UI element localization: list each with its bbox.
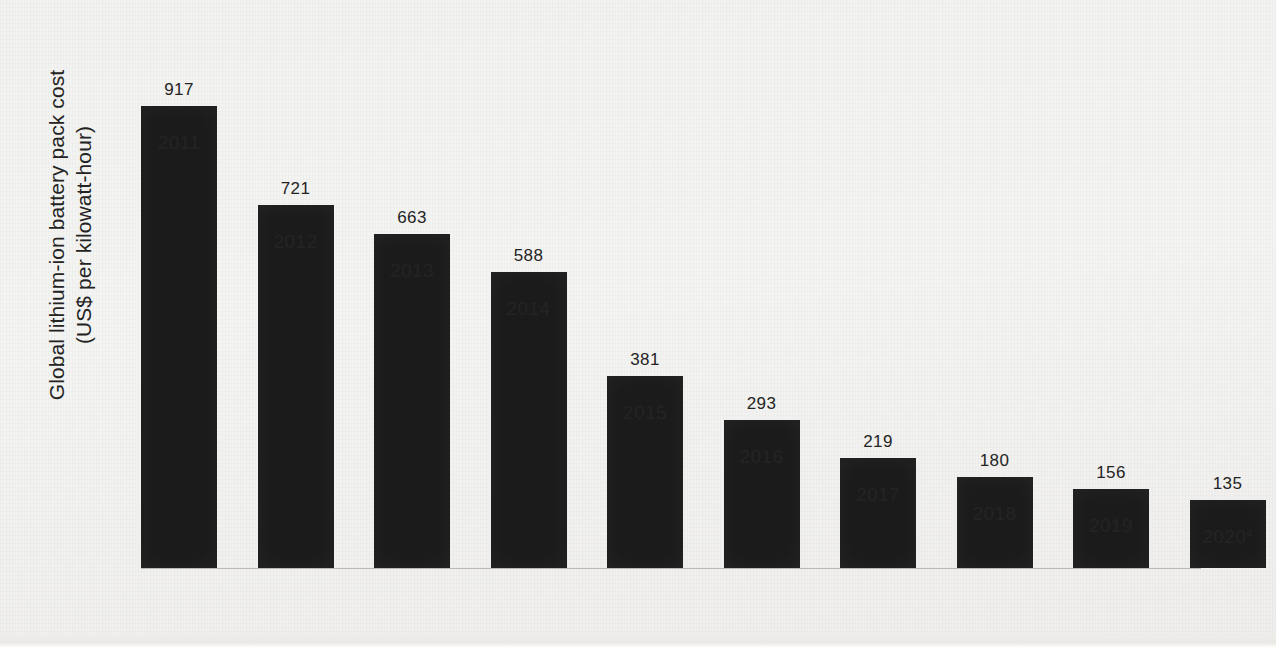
x-axis-tick-label-text: 2013 <box>390 260 434 281</box>
x-axis-tick-label: 2020a <box>1202 526 1252 548</box>
x-axis-tick-label-text: 2017 <box>856 484 900 505</box>
x-axis-tick-label: 2015 <box>623 402 667 424</box>
bar-value-label: 917 <box>164 80 193 100</box>
x-axis-baseline <box>141 568 1201 569</box>
x-axis-tick-label-text: 2015 <box>623 402 667 423</box>
x-axis-tick-label: 2011 <box>158 132 200 154</box>
bar-group: 2932016 <box>724 420 800 568</box>
x-axis-tick-label-text: 2011 <box>158 132 200 153</box>
y-axis-title: Global lithium-ion battery pack cost (US… <box>43 25 97 445</box>
bar-value-label: 135 <box>1213 474 1242 494</box>
bar <box>374 234 450 568</box>
bar-value-label: 180 <box>980 451 1009 471</box>
bar-group: 1802018 <box>957 477 1033 568</box>
bar <box>258 205 334 568</box>
bar-group: 6632013 <box>374 234 450 568</box>
x-axis-tick-label-text: 2016 <box>740 446 784 467</box>
bar-value-label: 588 <box>514 246 543 266</box>
x-axis-tick-label-text: 2012 <box>274 231 318 252</box>
x-axis-tick-label: 2016 <box>740 446 784 468</box>
x-axis-tick-label-text: 2020 <box>1202 526 1246 547</box>
bar-value-label: 219 <box>863 432 892 452</box>
bar <box>840 458 916 568</box>
x-axis-tick-label: 2017 <box>856 484 900 506</box>
x-axis-tick-label-text: 2018 <box>973 503 1017 524</box>
x-axis-tick-label: 2013 <box>390 260 434 282</box>
bar-chart-plot-area: Global lithium-ion battery pack cost (US… <box>0 0 1276 665</box>
bar-group: 1352020a <box>1190 500 1266 568</box>
bar-group: 1562019 <box>1073 489 1149 568</box>
bar-value-label: 721 <box>281 179 310 199</box>
bar-group: 9172011 <box>141 106 217 568</box>
x-axis-tick-label: 2012 <box>274 231 318 253</box>
x-axis-tick-label: 2019 <box>1089 515 1133 537</box>
x-axis-tick-label: 2014 <box>507 298 551 320</box>
bar-group: 7212012 <box>258 205 334 568</box>
x-axis-tick-label-text: 2019 <box>1089 515 1133 536</box>
x-axis-tick-label: 2018 <box>973 503 1017 525</box>
y-axis-title-line-1: Global lithium-ion battery pack cost <box>43 25 70 445</box>
bar-group: 3812015 <box>607 376 683 568</box>
x-axis-tick-footnote-marker: a <box>1246 526 1253 538</box>
bar <box>724 420 800 568</box>
chart-page: Global lithium-ion battery pack cost (US… <box>0 0 1276 665</box>
bar-value-label: 381 <box>630 350 659 370</box>
bar-value-label: 663 <box>397 208 426 228</box>
bar-group: 5882014 <box>491 272 567 568</box>
x-axis-tick-label-text: 2014 <box>507 298 551 319</box>
bar <box>141 106 217 568</box>
y-axis-title-line-2: (US$ per kilowatt-hour) <box>70 25 97 445</box>
bar-group: 2192017 <box>840 458 916 568</box>
bar-value-label: 293 <box>747 394 776 414</box>
bar-value-label: 156 <box>1096 463 1125 483</box>
